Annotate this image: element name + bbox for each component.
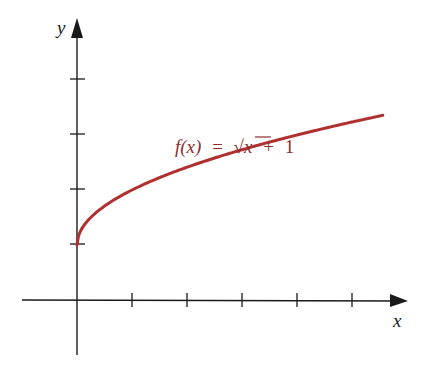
function-curve (77, 115, 383, 245)
sqrt-symbol: √ (234, 136, 245, 157)
constant-one: 1 (285, 136, 295, 157)
svg-text:f(x) = √x +: f(x) = √x + 1 (175, 136, 294, 158)
plot-canvas: y x f(x) = √x + 1 (0, 0, 427, 369)
x-axis-arrow-icon (390, 294, 408, 307)
x-axis (22, 300, 398, 301)
y-axis-label: y (55, 17, 66, 38)
x-axis-label: x (392, 310, 402, 331)
plus-sign: + (263, 136, 274, 157)
sqrt-var: x (243, 136, 253, 157)
equals-sign: = (212, 136, 223, 157)
y-axis-arrow-icon (71, 18, 83, 38)
function-arg: (x) (180, 136, 201, 158)
function-label: f(x) = √x + 1 (175, 136, 294, 158)
